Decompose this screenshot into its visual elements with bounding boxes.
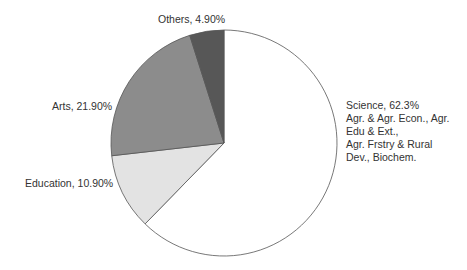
label-science-line: Edu & Ext., bbox=[346, 125, 449, 138]
label-science-line: Agr. & Agr. Econ., Agr. bbox=[346, 112, 449, 125]
label-others: Others, 4.90% bbox=[158, 13, 225, 26]
label-science-line: Science, 62.3% bbox=[346, 99, 449, 112]
label-science: Science, 62.3% Agr. & Agr. Econ., Agr. E… bbox=[346, 99, 449, 164]
label-science-line: Agr. Frstry & Rural bbox=[346, 138, 449, 151]
label-education: Education, 10.90% bbox=[25, 177, 113, 190]
label-science-line: Dev., Biochem. bbox=[346, 151, 449, 164]
label-arts: Arts, 21.90% bbox=[52, 100, 112, 113]
